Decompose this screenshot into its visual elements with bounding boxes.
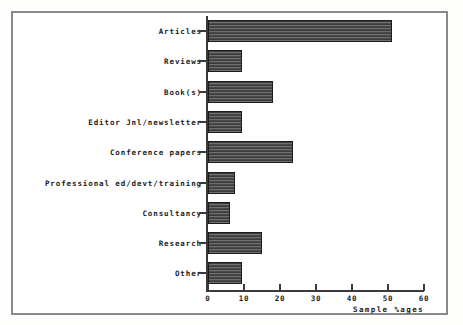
- bar-row: Reviews: [13, 46, 450, 76]
- bar: [208, 262, 242, 284]
- category-label: Research: [159, 239, 202, 248]
- y-axis-tick: [199, 91, 207, 93]
- bar-row: Conference papers: [13, 137, 450, 167]
- bar: [208, 81, 273, 103]
- y-axis-tick: [199, 182, 207, 184]
- x-axis-tick-label: 10: [239, 294, 250, 303]
- bar-row: Articles: [13, 16, 450, 46]
- x-axis-tick: [207, 284, 209, 291]
- bar: [208, 111, 242, 133]
- category-label: Professional ed/devt/training: [45, 178, 202, 187]
- bar-row: Research: [13, 228, 450, 258]
- bar-row: Book(s): [13, 77, 450, 107]
- bar: [208, 50, 242, 72]
- bar: [208, 141, 293, 163]
- y-axis-tick: [199, 60, 207, 62]
- bar-row: Editor Jnl/newsletter: [13, 107, 450, 137]
- bar: [208, 232, 262, 254]
- x-axis-tick-label: 60: [419, 294, 430, 303]
- x-axis-tick: [423, 284, 425, 291]
- x-axis-tick: [387, 284, 389, 291]
- x-axis-tick-label: 30: [311, 294, 322, 303]
- bar-row: Other: [13, 258, 450, 288]
- x-axis-title: Sample %ages: [13, 305, 424, 314]
- x-axis-tick-label: 50: [383, 294, 394, 303]
- bar: [208, 202, 230, 224]
- bar-chart-plot-area: ArticlesReviewsBook(s)Editor Jnl/newslet…: [13, 13, 450, 317]
- y-axis-tick: [199, 30, 207, 32]
- bar: [208, 172, 235, 194]
- category-label: Reviews: [164, 57, 202, 66]
- x-axis-tick-label: 0: [205, 294, 210, 303]
- y-axis-tick: [199, 272, 207, 274]
- y-axis-tick: [199, 151, 207, 153]
- x-axis-tick: [315, 284, 317, 291]
- y-axis-tick: [199, 212, 207, 214]
- x-axis-tick-label: 40: [347, 294, 358, 303]
- bar-row: Consultancy: [13, 198, 450, 228]
- figure-frame: ArticlesReviewsBook(s)Editor Jnl/newslet…: [11, 11, 448, 315]
- x-axis-tick: [351, 284, 353, 291]
- x-axis-tick: [243, 284, 245, 291]
- category-label: Other: [175, 269, 202, 278]
- x-axis-tick-label: 20: [275, 294, 286, 303]
- category-label: Consultancy: [142, 208, 202, 217]
- category-label: Conference papers: [110, 148, 202, 157]
- category-label: Articles: [159, 27, 202, 36]
- scanned-page-background: ArticlesReviewsBook(s)Editor Jnl/newslet…: [0, 0, 463, 325]
- bar: [208, 20, 392, 42]
- bar-row: Professional ed/devt/training: [13, 168, 450, 198]
- y-axis-tick: [199, 242, 207, 244]
- category-label: Editor Jnl/newsletter: [88, 117, 202, 126]
- x-axis-tick: [279, 284, 281, 291]
- category-label: Book(s): [164, 87, 202, 96]
- y-axis-tick: [199, 121, 207, 123]
